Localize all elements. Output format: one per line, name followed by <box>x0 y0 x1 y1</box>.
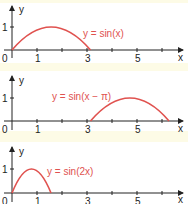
y-tick-label: 1 <box>2 22 8 33</box>
y-axis-label: y <box>19 4 24 15</box>
x-tick-label-1: 1 <box>35 124 41 135</box>
equation-label: y = sin(2x) <box>47 166 93 177</box>
graph-sin-x-minus-pi: y 1 0 1 3 5 x y = sin(x − π) <box>2 75 183 135</box>
x-tick-label-1: 1 <box>35 196 41 204</box>
graph-sin-x: y 1 0 1 3 5 x y = sin(x) <box>2 4 183 64</box>
curve-sin-x <box>12 27 91 50</box>
x-tick-label-5: 5 <box>135 124 141 135</box>
graphs-svg: y 1 0 1 3 5 x y = sin(x) y 1 0 1 3 5 <box>0 0 188 204</box>
x-tick-label-5: 5 <box>135 53 141 64</box>
x-tick-label-5: 5 <box>135 196 141 204</box>
x-tick-label-0: 0 <box>2 124 8 135</box>
x-tick-label-0: 0 <box>2 196 8 204</box>
equation-label: y = sin(x) <box>83 28 124 39</box>
x-axis-label: x <box>178 194 183 204</box>
y-axis-label: y <box>19 146 24 157</box>
x-axis-label: x <box>178 123 183 134</box>
x-tick-label-0: 0 <box>2 53 8 64</box>
x-tick-label-3: 3 <box>85 53 91 64</box>
curve-sin-2x <box>12 169 51 193</box>
y-tick-label: 1 <box>2 164 8 175</box>
y-tick-label: 1 <box>2 93 8 104</box>
y-axis-label: y <box>19 75 24 86</box>
x-tick-label-1: 1 <box>35 53 41 64</box>
x-axis-label: x <box>178 52 183 63</box>
sine-graphs-figure: y 1 0 1 3 5 x y = sin(x) y 1 0 1 3 5 <box>0 0 188 204</box>
x-tick-label-3: 3 <box>85 196 91 204</box>
x-tick-label-3: 3 <box>85 124 91 135</box>
equation-label: y = sin(x − π) <box>52 91 111 102</box>
graph-sin-2x: y 1 0 1 3 5 x y = sin(2x) <box>2 146 183 204</box>
